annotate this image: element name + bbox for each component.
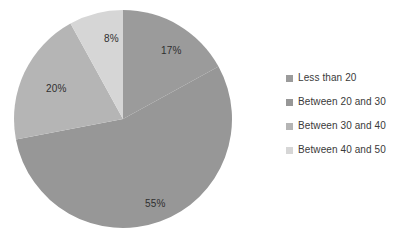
- legend-item-label: Between 30 and 40: [298, 121, 386, 131]
- chart-legend: Less than 20 Between 20 and 30 Between 3…: [286, 66, 408, 162]
- legend-item[interactable]: Between 30 and 40: [286, 114, 408, 138]
- slice-label-between-20-and-30: 55%: [145, 199, 166, 209]
- legend-swatch-icon: [286, 147, 293, 154]
- slice-label-between-30-and-40: 20%: [46, 84, 67, 94]
- legend-swatch-icon: [286, 123, 293, 130]
- legend-item[interactable]: Less than 20: [286, 66, 408, 90]
- pie-graphic: 17% 55% 20% 8%: [13, 9, 233, 229]
- legend-swatch-icon: [286, 75, 293, 82]
- pie-svg: [13, 9, 233, 229]
- pie-chart: 17% 55% 20% 8% Less than 20 Between 20 a…: [0, 0, 412, 237]
- slice-label-between-40-and-50: 8%: [104, 34, 119, 44]
- slice-label-less-than-20: 17%: [161, 46, 182, 56]
- legend-item-label: Between 40 and 50: [298, 145, 386, 155]
- legend-item[interactable]: Between 20 and 30: [286, 90, 408, 114]
- legend-item[interactable]: Between 40 and 50: [286, 138, 408, 162]
- legend-swatch-icon: [286, 99, 293, 106]
- legend-item-label: Between 20 and 30: [298, 97, 386, 107]
- legend-item-label: Less than 20: [298, 73, 356, 83]
